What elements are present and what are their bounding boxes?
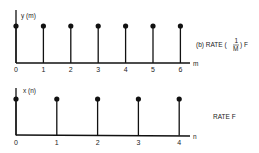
stem-dot [150, 23, 155, 28]
bottom-x-label: n [193, 133, 197, 140]
stem-dot [177, 96, 182, 101]
top-rate-prefix: (b) RATE ( [196, 41, 227, 49]
top-rate-numerator: 1 [235, 37, 239, 44]
stem-dot [95, 96, 100, 101]
stem-dot [136, 96, 141, 101]
top-rate-suffix: ) F [240, 41, 248, 49]
stem-dot [96, 23, 101, 28]
top-stems: 0123456 [13, 23, 183, 73]
tick-label: 5 [151, 66, 155, 73]
stem-dot [13, 23, 18, 28]
tick-label: 4 [124, 66, 128, 73]
tick-label: 2 [96, 139, 100, 146]
tick-label: 6 [178, 66, 182, 73]
top-rate-label: (b) RATE ( 1 M ) F [196, 37, 248, 52]
tick-label: 0 [14, 139, 18, 146]
tick-label: 3 [136, 139, 140, 146]
stem-dot [123, 23, 128, 28]
tick-label: 1 [41, 66, 45, 73]
sampling-rate-diagram: y (m) m 0123456 (b) RATE ( 1 M ) F x (n)… [0, 0, 259, 153]
stem-dot [178, 23, 183, 28]
bottom-stem-plot: x (n) n 01234 RATE F [13, 87, 235, 146]
bottom-stems: 01234 [13, 96, 181, 146]
top-signal-label: y (m) [21, 12, 36, 20]
top-x-label: m [193, 60, 198, 67]
bottom-rate-label: RATE F [213, 113, 236, 120]
top-rate-denominator: M [233, 45, 238, 52]
tick-label: 0 [14, 66, 18, 73]
top-stem-plot: y (m) m 0123456 (b) RATE ( 1 M ) F [13, 10, 248, 73]
tick-label: 3 [96, 66, 100, 73]
stem-dot [54, 96, 59, 101]
stem-dot [41, 23, 46, 28]
stem-dot [68, 23, 73, 28]
stem-dot [13, 96, 18, 101]
bottom-signal-label: x (n) [23, 87, 36, 95]
tick-label: 4 [177, 139, 181, 146]
tick-label: 1 [55, 139, 59, 146]
tick-label: 2 [69, 66, 73, 73]
bottom-x-axis [16, 135, 190, 136]
